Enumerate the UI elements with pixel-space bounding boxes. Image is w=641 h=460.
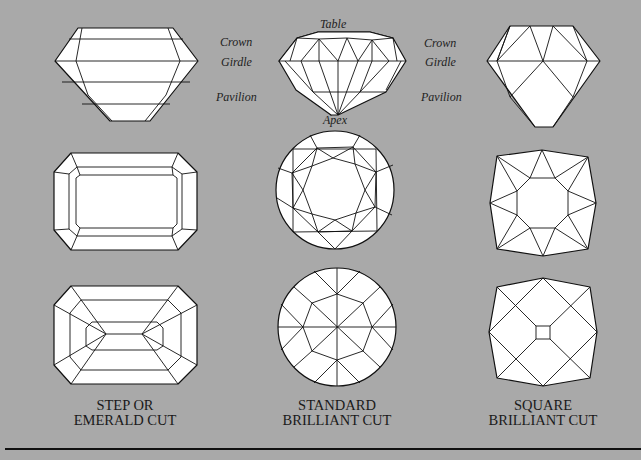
- pavilion-label-left: Pavilion: [216, 90, 257, 105]
- square-cut-bottom-view: [489, 278, 597, 386]
- caption-line: STANDARD: [252, 398, 422, 413]
- emerald-cut-top-view: [54, 153, 197, 250]
- caption-line: BRILLIANT CUT: [458, 413, 628, 428]
- pavilion-label-right: Pavilion: [421, 90, 462, 105]
- emerald-cut-side-view: [55, 28, 198, 121]
- bottom-rule-divider: [5, 448, 641, 450]
- brilliant-cut-bottom-view: [278, 268, 396, 386]
- caption-line: EMERALD CUT: [40, 413, 210, 428]
- caption-square-brilliant-cut: SQUARE BRILLIANT CUT: [458, 398, 628, 428]
- brilliant-cut-top-view: [276, 131, 394, 249]
- caption-line: BRILLIANT CUT: [252, 413, 422, 428]
- girdle-label-left: Girdle: [221, 55, 252, 70]
- crown-label-left: Crown: [220, 35, 252, 50]
- gem-cuts-diagram: [0, 0, 641, 460]
- apex-label: Apex: [323, 113, 347, 128]
- table-label: Table: [320, 17, 346, 32]
- caption-line: SQUARE: [458, 398, 628, 413]
- caption-standard-brilliant-cut: STANDARD BRILLIANT CUT: [252, 398, 422, 428]
- caption-emerald-cut: STEP OR EMERALD CUT: [40, 398, 210, 428]
- square-cut-top-view: [490, 150, 596, 256]
- girdle-label-right: Girdle: [425, 55, 456, 70]
- square-cut-side-view: [487, 26, 600, 127]
- emerald-cut-bottom-view: [54, 286, 197, 384]
- brilliant-cut-side-view: [279, 32, 406, 115]
- crown-label-right: Crown: [424, 36, 456, 51]
- caption-line: STEP OR: [40, 398, 210, 413]
